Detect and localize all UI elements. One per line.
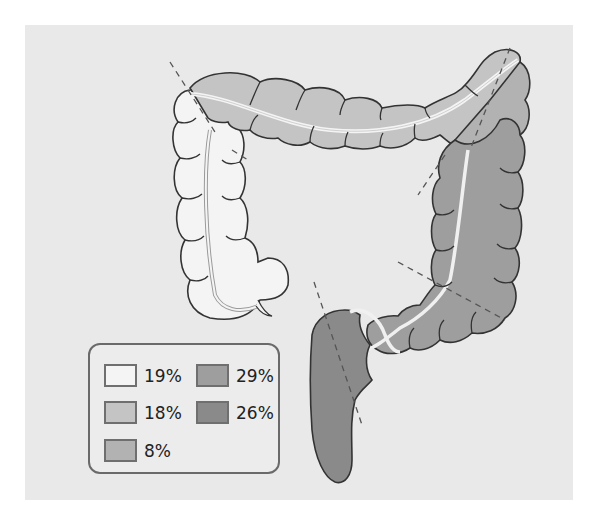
legend-label: 29% — [236, 366, 274, 386]
legend-item-18: 18% — [104, 401, 182, 424]
legend-label: 18% — [144, 403, 182, 423]
sigmoid-rectum-segment — [311, 310, 401, 483]
legend-swatch — [196, 401, 229, 424]
legend-item-26: 26% — [196, 401, 274, 424]
legend-swatch — [104, 439, 137, 462]
legend-item-8: 8% — [104, 439, 171, 462]
descending-colon-segment — [360, 119, 525, 354]
legend-label: 8% — [144, 441, 171, 461]
legend-swatch — [196, 364, 229, 387]
legend-label: 19% — [144, 366, 182, 386]
legend-swatch — [104, 364, 137, 387]
legend: 19% 18% 8% 29% 26% — [88, 343, 280, 474]
legend-swatch — [104, 401, 137, 424]
legend-label: 26% — [236, 403, 274, 423]
legend-item-29: 29% — [196, 364, 274, 387]
legend-item-19: 19% — [104, 364, 182, 387]
